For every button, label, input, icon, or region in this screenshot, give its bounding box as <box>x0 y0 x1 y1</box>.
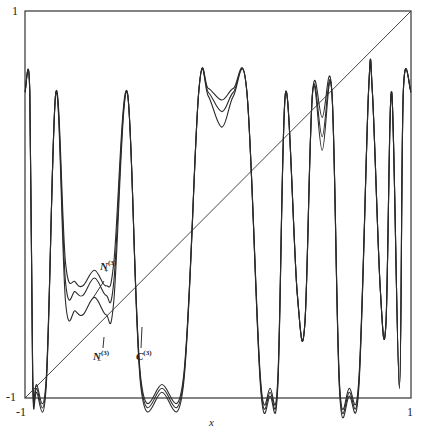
label-n-minus-sup: (3) <box>101 349 109 357</box>
chart-canvas <box>0 0 423 433</box>
label-n-minus: N(3)− <box>93 350 101 365</box>
curve-n-3- <box>25 59 411 418</box>
label-c-sup: (3) <box>143 349 151 357</box>
x-tick-max: 1 <box>407 405 413 420</box>
curve-n-3- <box>25 60 411 410</box>
label-c: C(3) <box>136 350 152 362</box>
x-axis-label: x <box>209 416 214 428</box>
label-n-minus-sub: − <box>97 357 101 365</box>
label-n-plus-sup: (3) <box>108 259 116 267</box>
x-tick-min: -1 <box>16 405 26 420</box>
label-n-plus: N(3)+ <box>100 260 108 275</box>
leader-n-minus <box>103 337 104 348</box>
identity-line <box>25 11 411 398</box>
leader-c <box>141 327 142 348</box>
label-n-plus-sub: + <box>104 267 108 275</box>
y-tick-min: -1 <box>6 390 16 405</box>
y-tick-max: 1 <box>12 4 18 19</box>
curves-group <box>25 59 411 418</box>
curve-c-3- <box>25 59 411 413</box>
annotation-leaders <box>93 281 142 348</box>
